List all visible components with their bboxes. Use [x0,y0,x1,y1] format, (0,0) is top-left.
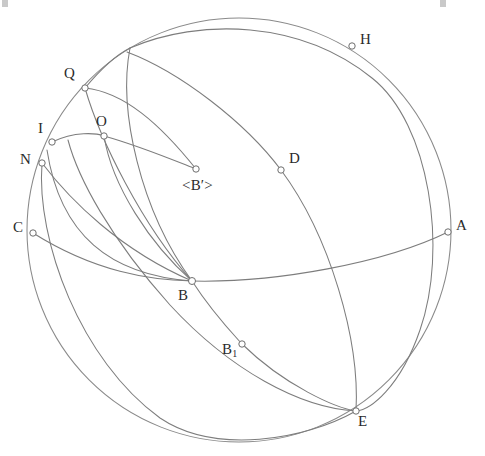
great-circle-N-bottom-to-E [41,163,356,440]
arc-I-through-O-to-Bprime [52,134,196,169]
arc-B-through-B1-to-E [192,281,356,411]
point-label-H: H [360,32,371,47]
meridian-N-to-B [42,163,192,281]
vertex-marker-D[interactable] [278,167,284,173]
great-circle-D-to-E [127,52,356,411]
point-label-B1-subscript: 1 [232,348,237,359]
point-label-O: O [96,114,107,129]
vertex-marker-B[interactable] [189,278,196,285]
point-label-C: C [13,220,23,235]
vertex-marker-C[interactable] [30,230,36,236]
equator-arc-C-to-A [33,232,448,281]
scan-artifact-top-right [440,0,446,7]
spherical-diagram-figure: H Q O I N D <B′> C A B B1 E [0,0,485,456]
point-label-E: E [358,414,367,429]
arc-Q-to-top-junction [85,48,130,88]
point-label-B1-base: B [222,341,232,357]
point-label-I: I [38,121,43,136]
point-label-B-prime: <B′> [182,178,213,193]
vertex-marker-B1[interactable] [239,341,245,347]
point-label-B: B [178,288,188,303]
vertex-marker-A[interactable] [445,229,451,235]
point-label-D: D [289,151,300,166]
meridian-topjunction-to-B [127,48,192,281]
vertex-marker-B-prime[interactable] [193,166,199,172]
great-circle-H-upper [130,29,433,411]
vertex-marker-O[interactable] [101,133,107,139]
point-label-A: A [456,218,467,233]
point-label-N: N [20,152,31,167]
vertex-marker-H[interactable] [349,43,355,49]
scan-artifact-top-left [2,0,8,7]
point-label-Q: Q [64,66,75,81]
vertex-marker-Q[interactable] [82,85,88,91]
arc-I-bowed-to-B [47,150,192,281]
vertex-marker-N[interactable] [39,160,45,166]
vertex-marker-I[interactable] [49,139,55,145]
point-label-B1: B1 [222,342,237,359]
meridian-O-to-B [104,136,192,281]
